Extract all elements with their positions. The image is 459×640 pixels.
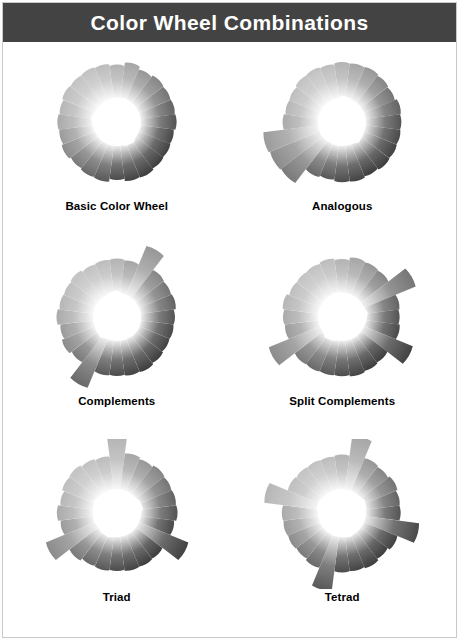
color-wheel-svg (258, 243, 426, 393)
wheel-label-basic-color-wheel: Basic Color Wheel (65, 200, 168, 212)
color-wheel-svg (258, 48, 426, 198)
wheel-cell-tetrad: Tetrad (230, 439, 456, 634)
wheel-label-split-complements: Split Complements (289, 395, 395, 407)
wheel-cell-triad: Triad (4, 439, 230, 634)
wheel-cell-complements: Complements (4, 243, 230, 438)
page-title: Color Wheel Combinations (91, 12, 369, 33)
color-wheel-basic-color-wheel (32, 48, 202, 198)
wheel-label-triad: Triad (103, 591, 131, 603)
color-wheel-analogous (257, 48, 427, 198)
page-root: Color Wheel Combinations Basic Color Whe… (0, 0, 459, 640)
wheel-cell-split-complements: Split Complements (230, 243, 456, 438)
color-wheel-svg (33, 243, 201, 393)
wheel-label-analogous: Analogous (312, 200, 372, 212)
header-bar: Color Wheel Combinations (3, 3, 456, 42)
wheel-grid: Basic Color Wheel Analogous Complements … (4, 48, 455, 634)
wheel-cell-basic-color-wheel: Basic Color Wheel (4, 48, 230, 243)
color-wheel-triad (32, 439, 202, 589)
wheel-label-tetrad: Tetrad (325, 591, 360, 603)
color-wheel-tetrad (257, 439, 427, 589)
color-wheel-svg (258, 439, 426, 589)
color-wheel-split-complements (257, 243, 427, 393)
wheel-label-complements: Complements (78, 395, 155, 407)
wheel-cell-analogous: Analogous (230, 48, 456, 243)
color-wheel-complements (32, 243, 202, 393)
color-wheel-svg (33, 439, 201, 589)
color-wheel-svg (33, 48, 201, 198)
